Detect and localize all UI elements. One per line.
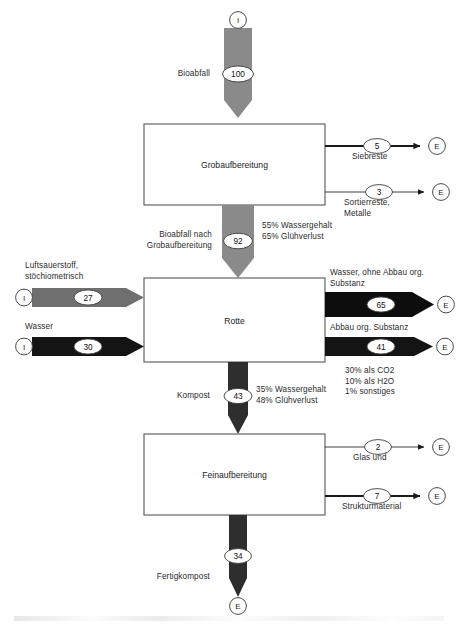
flow-label-strukturmaterial: Strukturmaterial	[342, 502, 401, 513]
flow-value-fertigkompost: 34	[225, 549, 252, 564]
terminal-label: I	[237, 16, 239, 25]
terminal-input-luftsauerstoff[interactable]: I	[16, 289, 33, 306]
flow-label-wasser-in: Wasser	[25, 322, 53, 333]
flow-value-wasser-in: 30	[74, 339, 102, 354]
flow-value-abbau-org-substanz: 41	[367, 339, 395, 354]
terminal-export-glas[interactable]: E	[433, 439, 450, 456]
flow-label-kompost: Kompost	[110, 391, 210, 402]
terminal-export-strukturmaterial[interactable]: E	[429, 488, 446, 505]
annotation-bioabfall-nach-grob: 55% Wassergehalt 65% Glühverlust	[262, 221, 332, 242]
svg-text:34: 34	[233, 551, 243, 561]
terminal-label: E	[438, 188, 443, 197]
terminal-export-siebreste[interactable]: E	[429, 138, 446, 155]
terminal-label: I	[23, 343, 25, 352]
flow-label-luftsauerstoff: Luftsauerstoff, stöchiometrisch	[25, 261, 83, 282]
terminal-label: E	[434, 142, 439, 151]
svg-text:100: 100	[231, 69, 245, 79]
svg-text:5: 5	[375, 141, 380, 151]
flow-value-bioabfall-nach-grob: 92	[224, 233, 253, 249]
svg-text:43: 43	[233, 391, 243, 401]
page-edge-artifact	[14, 616, 444, 621]
terminal-export-abbau-org[interactable]: E	[437, 338, 454, 355]
svg-text:92: 92	[233, 236, 243, 246]
terminal-input-wasser[interactable]: I	[16, 338, 33, 355]
svg-text:30: 30	[83, 342, 93, 352]
terminal-label: E	[442, 343, 447, 352]
flow-label-wasser-ohne-abbau: Wasser, ohne Abbau org. Substanz	[330, 268, 424, 289]
flow-label-siebreste: Siebreste	[352, 152, 388, 163]
material-flow-diagram: I E E I I E E	[0, 0, 472, 628]
flow-value-wasser-ohne-abbau: 65	[367, 297, 395, 312]
flow-label-bioabfall: Bioabfall	[100, 69, 210, 80]
terminal-export-sortierreste[interactable]: E	[433, 184, 450, 201]
terminal-export-fertigkompost[interactable]: E	[230, 598, 247, 615]
svg-text:41: 41	[376, 342, 386, 352]
flow-label-glas-und: Glas und	[353, 453, 387, 464]
svg-text:3: 3	[377, 187, 382, 197]
terminal-input-bioabfall[interactable]: I	[230, 12, 247, 29]
svg-text:7: 7	[375, 491, 380, 501]
flow-value-luftsauerstoff: 27	[74, 290, 102, 305]
flow-label-fertigkompost: Fertigkompost	[100, 572, 210, 583]
svg-text:65: 65	[376, 300, 386, 310]
terminal-label: E	[443, 301, 448, 310]
terminal-export-wasser-ohne-abbau[interactable]: E	[438, 296, 455, 313]
process-label-rotte: Rotte	[144, 316, 325, 326]
terminal-label: E	[235, 602, 240, 611]
diagram-canvas: I E E I I E E	[0, 0, 472, 628]
process-label-grobaufbereitung: Grobaufbereitung	[144, 160, 325, 170]
terminal-label: E	[434, 492, 439, 501]
terminal-label: I	[23, 294, 25, 303]
annotation-abbau-org-substanz: 30% als CO2 10% als H2O 1% sonstiges	[345, 366, 395, 398]
annotation-kompost: 35% Wassergehalt 48% Glühverlust	[256, 385, 326, 406]
flow-value-bioabfall-in: 100	[223, 66, 254, 82]
process-label-feinaufbereitung: Feinaufbereitung	[144, 470, 325, 480]
flow-label-sortierreste-metalle: Sortierreste, Metalle	[344, 198, 390, 219]
flow-label-abbau-org-substanz: Abbau org. Substanz	[330, 323, 408, 334]
flow-label-bioabfall-nach-grob: Bioabfall nach Grobaufbereitung	[80, 230, 212, 251]
terminal-label: E	[438, 443, 443, 452]
svg-text:27: 27	[83, 293, 93, 303]
svg-text:2: 2	[376, 442, 381, 452]
flow-value-kompost: 43	[224, 388, 252, 403]
